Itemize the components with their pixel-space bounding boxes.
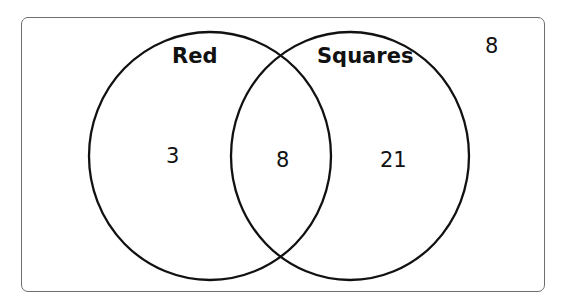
red-only-count: 3 — [166, 146, 179, 167]
squares-set-label: Squares — [317, 46, 413, 67]
squares-set-circle — [231, 32, 469, 280]
intersection-count: 8 — [276, 150, 289, 171]
outside-count: 8 — [485, 36, 498, 57]
red-set-circle — [89, 32, 331, 280]
squares-only-count: 21 — [380, 150, 407, 171]
red-set-label: Red — [172, 46, 217, 67]
